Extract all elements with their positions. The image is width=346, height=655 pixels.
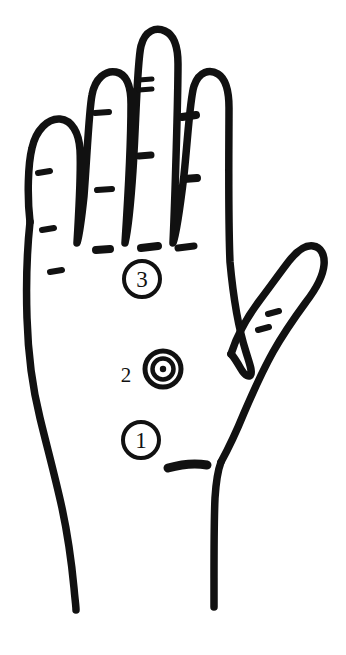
ring-crease-middle (97, 189, 112, 190)
middle-crease-proximal (141, 246, 158, 248)
middle-crease-distal-upper (139, 79, 152, 80)
thumb-crease-upper (268, 311, 279, 314)
marker-1-label: 1 (135, 428, 147, 453)
hand-illustration: 3 2 1 (0, 0, 346, 655)
middle-crease-distal-lower (139, 89, 152, 90)
pinky-crease-proximal (50, 270, 62, 272)
index-crease-distal (182, 115, 196, 117)
pinky-crease-distal (38, 171, 50, 173)
palm-base-crease-group (168, 464, 207, 468)
thenar-crease-path (168, 464, 207, 468)
index-crease-proximal (178, 246, 194, 248)
middle-crease-middle (139, 155, 151, 156)
index-crease-middle (184, 178, 197, 179)
marker-3-label: 3 (136, 267, 148, 292)
hand-diagram-figure: 3 2 1 (0, 0, 346, 655)
ring-crease-proximal (96, 249, 110, 250)
marker-2-label: 2 (121, 363, 132, 387)
figure-background (0, 0, 346, 655)
pinky-crease-middle (42, 228, 54, 230)
marker-2-center-dot (160, 366, 166, 372)
marker-3[interactable]: 3 (124, 261, 160, 297)
marker-1[interactable]: 1 (123, 422, 159, 458)
ring-crease-distal (95, 112, 109, 113)
thumb-crease-lower (258, 327, 269, 330)
